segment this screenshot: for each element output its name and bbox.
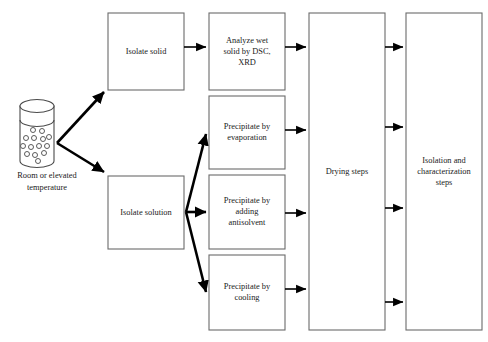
node-precipitate-antisolvent-line-3: antisolvent bbox=[229, 218, 266, 227]
edge-isolate-solution-to-evaporation bbox=[186, 134, 206, 212]
node-isolate-solution-label: Isolate solution bbox=[120, 208, 172, 217]
node-analyze-wet-solid-line-1: Analyze wet bbox=[226, 36, 269, 45]
node-isolation-characterization-line-1: Isolation and bbox=[422, 156, 466, 165]
node-precipitate-evaporation-line-2: evaporation bbox=[227, 133, 267, 142]
node-precipitate-antisolvent-line-2: adding bbox=[236, 207, 260, 216]
flowchart-svg: Room or elevated temperature Isolate sol… bbox=[0, 0, 488, 342]
edge-vessel-to-isolate-solid bbox=[57, 92, 104, 143]
node-precipitate-cooling-line-2: cooling bbox=[234, 293, 260, 302]
edge-vessel-to-isolate-solution bbox=[57, 143, 104, 172]
node-precipitate-cooling-line-1: Precipitate by bbox=[224, 282, 271, 291]
vessel-top-rim bbox=[20, 100, 54, 113]
node-isolate-solid-label: Isolate solid bbox=[126, 47, 168, 56]
vessel-caption-line-1: Room or elevated bbox=[17, 171, 77, 180]
node-precipitate-antisolvent-line-1: Precipitate by bbox=[224, 196, 271, 205]
node-analyze-wet-solid-line-2: solid by DSC, bbox=[223, 47, 270, 56]
vessel-caption-line-2: temperature bbox=[27, 183, 67, 192]
sample-vessel bbox=[20, 100, 54, 168]
edge-isolate-solution-to-cooling bbox=[186, 212, 206, 292]
node-analyze-wet-solid-line-3: XRD bbox=[238, 58, 256, 67]
flowchart-canvas: Room or elevated temperature Isolate sol… bbox=[0, 0, 488, 342]
node-drying-steps-label: Drying steps bbox=[326, 167, 369, 176]
node-isolation-characterization-line-2: characterization bbox=[417, 167, 471, 176]
node-isolation-characterization-line-3: steps bbox=[436, 178, 453, 187]
node-precipitate-evaporation-line-1: Precipitate by bbox=[224, 122, 271, 131]
